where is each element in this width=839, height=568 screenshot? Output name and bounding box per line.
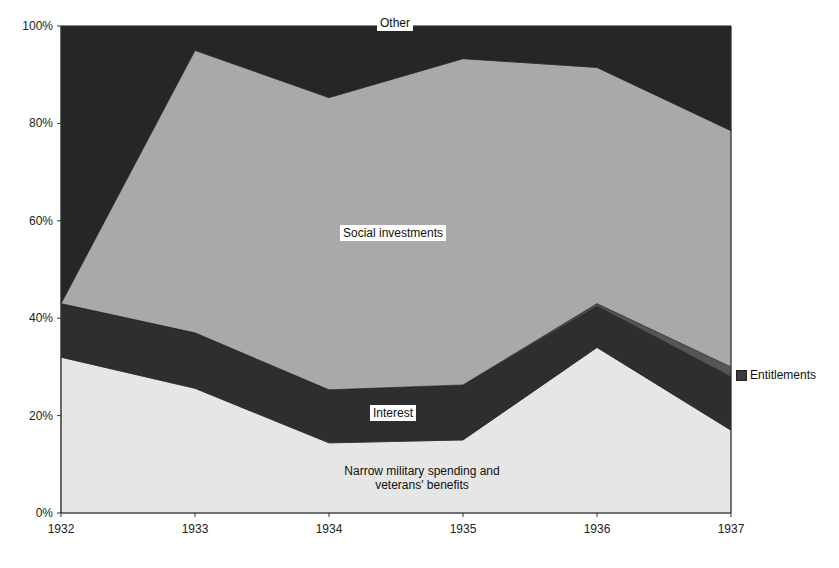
y-tick-label: 60% bbox=[29, 214, 53, 228]
x-tick-label: 1936 bbox=[584, 522, 611, 536]
label-other: Other bbox=[377, 15, 413, 31]
label-military-line1: Narrow military spending and bbox=[322, 464, 522, 478]
label-military: Narrow military spending and veterans' b… bbox=[322, 464, 522, 492]
x-tick-label: 1935 bbox=[450, 522, 477, 536]
x-tick-label: 1934 bbox=[316, 522, 343, 536]
y-tick-label: 100% bbox=[22, 19, 53, 33]
y-tick-label: 20% bbox=[29, 409, 53, 423]
legend-swatch-entitlements bbox=[736, 370, 747, 381]
y-tick-label: 80% bbox=[29, 116, 53, 130]
label-military-line2: veterans' benefits bbox=[322, 478, 522, 492]
x-tick-label: 1937 bbox=[718, 522, 745, 536]
label-social-investments: Social investments bbox=[340, 225, 446, 241]
label-interest: Interest bbox=[370, 405, 416, 421]
y-tick-label: 0% bbox=[36, 506, 54, 520]
legend-label-entitlements: Entitlements bbox=[750, 368, 816, 382]
x-tick-label: 1932 bbox=[48, 522, 75, 536]
chart-areas bbox=[61, 26, 731, 513]
legend: Entitlements bbox=[736, 368, 816, 382]
x-tick-label: 1933 bbox=[182, 522, 209, 536]
y-tick-label: 40% bbox=[29, 311, 53, 325]
